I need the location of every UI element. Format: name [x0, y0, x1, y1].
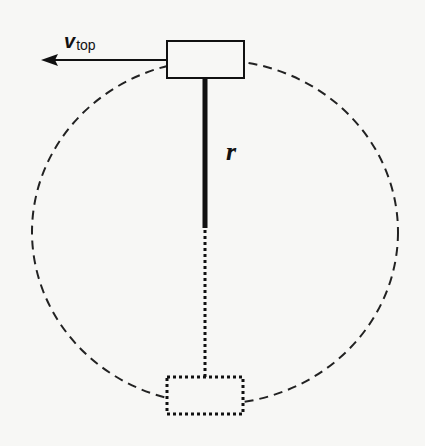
- radius-label: r: [226, 137, 237, 166]
- velocity-symbol: v: [64, 30, 77, 52]
- velocity-subscript: top: [76, 37, 96, 53]
- diagram-svg: vtop r: [0, 0, 425, 446]
- diagram-canvas: vtop r: [0, 0, 425, 446]
- circular-path: [32, 60, 398, 404]
- velocity-label: vtop: [64, 30, 96, 53]
- mass-top: [167, 41, 244, 78]
- mass-bottom: [167, 377, 243, 414]
